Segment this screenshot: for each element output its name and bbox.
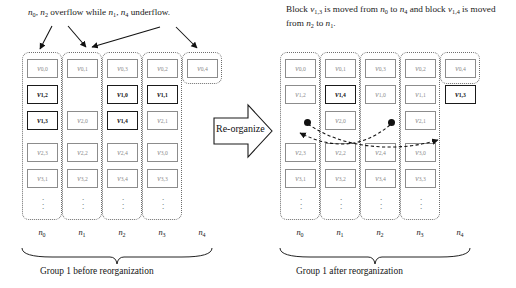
- vertical-ellipsis-icon: ...: [401, 195, 441, 209]
- node-label-n0: n0: [280, 228, 320, 238]
- block-cell[interactable]: v1,3: [445, 85, 476, 104]
- vertical-ellipsis-icon: ...: [23, 195, 63, 209]
- node-column-n4[interactable]: v0,4: [182, 52, 222, 84]
- vacated-slot-dot-n2: [388, 119, 395, 126]
- node-column-n3[interactable]: v0,2v1,1v2,1v3,0v3,3...: [400, 52, 440, 220]
- node-label-n3: n3: [400, 228, 440, 238]
- node-column-n0[interactable]: v0,0v1,2v1,3v2,3v3,1...: [22, 52, 62, 220]
- block-cell[interactable]: v2,2: [67, 143, 98, 162]
- block-cell[interactable]: v0,0: [27, 59, 58, 78]
- block-cell[interactable]: v0,1: [325, 59, 356, 78]
- block-cell[interactable]: v0,3: [107, 59, 138, 78]
- right-panel-caption: Block v1,3 is moved from n0 to n4 and bl…: [286, 4, 501, 31]
- block-cell[interactable]: v3,0: [147, 143, 178, 162]
- block-cell[interactable]: v3,3: [147, 169, 178, 188]
- block-cell[interactable]: v1,0: [107, 85, 138, 104]
- node-label-n1: n1: [62, 228, 102, 238]
- block-cell[interactable]: v2,0: [325, 111, 356, 130]
- vertical-ellipsis-icon: ...: [143, 195, 183, 209]
- block-cell[interactable]: v1,3: [27, 111, 58, 130]
- block-cell[interactable]: v0,3: [365, 59, 396, 78]
- node-column-n1[interactable]: v0,1v2,0v2,2v3,2...: [62, 52, 102, 220]
- node-label-n2: n2: [102, 228, 142, 238]
- block-cell[interactable]: v1,1: [405, 85, 436, 104]
- node-column-n0[interactable]: v0,0v1,2v2,3v3,1...: [280, 52, 320, 220]
- block-cell[interactable]: v2,1: [405, 111, 436, 130]
- vertical-ellipsis-icon: ...: [281, 195, 321, 209]
- block-cell[interactable]: v2,0: [67, 111, 98, 130]
- node-column-n2[interactable]: v0,3v1,0v2,4v3,4...: [360, 52, 400, 220]
- node-column-n3[interactable]: v0,2v1,1v2,1v3,0v3,3...: [142, 52, 182, 220]
- block-cell[interactable]: v3,3: [405, 169, 436, 188]
- vertical-ellipsis-icon: ...: [361, 195, 401, 209]
- block-cell[interactable]: v2,4: [365, 143, 396, 162]
- block-cell[interactable]: v2,2: [325, 143, 356, 162]
- vertical-ellipsis-icon: ...: [63, 195, 103, 209]
- right-group-caption: Group 1 after reorganization: [296, 266, 403, 276]
- block-cell[interactable]: v2,3: [27, 143, 58, 162]
- node-column-n1[interactable]: v0,1v1,4v2,0v2,2v3,2...: [320, 52, 360, 220]
- block-cell[interactable]: v3,4: [107, 169, 138, 188]
- vertical-ellipsis-icon: ...: [103, 195, 143, 209]
- block-cell[interactable]: v3,0: [405, 143, 436, 162]
- vacated-slot-dot-n0: [304, 119, 311, 126]
- block-cell[interactable]: v0,0: [285, 59, 316, 78]
- block-cell[interactable]: v1,0: [365, 85, 396, 104]
- right-panel: Block v1,3 is moved from n0 to n4 and bl…: [258, 0, 516, 288]
- block-cell[interactable]: v3,2: [325, 169, 356, 188]
- right-columns: v0,0v1,2v2,3v3,1...n0v0,1v1,4v2,0v2,2v3,…: [258, 52, 516, 230]
- node-label-n3: n3: [142, 228, 182, 238]
- block-cell[interactable]: v0,2: [147, 59, 178, 78]
- block-cell[interactable]: v1,1: [147, 85, 178, 104]
- block-cell[interactable]: v3,2: [67, 169, 98, 188]
- block-cell[interactable]: v0,1: [67, 59, 98, 78]
- caption-text: Block v1,3 is moved from n0 to n4 and bl…: [286, 4, 496, 28]
- left-group-caption: Group 1 before reorganization: [40, 266, 154, 276]
- node-column-n4[interactable]: v0,4v1,3: [440, 52, 480, 84]
- block-cell[interactable]: v0,2: [405, 59, 436, 78]
- block-cell[interactable]: v3,4: [365, 169, 396, 188]
- caption-text: n0, n2 overflow while n1, n4 underflow.: [28, 7, 170, 17]
- node-label-n2: n2: [360, 228, 400, 238]
- block-cell[interactable]: v1,4: [107, 111, 138, 130]
- block-cell[interactable]: v3,1: [27, 169, 58, 188]
- block-cell[interactable]: v2,4: [107, 143, 138, 162]
- block-cell[interactable]: v1,2: [285, 85, 316, 104]
- block-cell[interactable]: v2,3: [285, 143, 316, 162]
- block-cell[interactable]: v0,4: [187, 59, 218, 78]
- reorganize-label: Re-organize: [216, 123, 265, 134]
- node-label-n1: n1: [320, 228, 360, 238]
- block-cell[interactable]: v1,2: [27, 85, 58, 104]
- node-label-n0: n0: [22, 228, 62, 238]
- node-label-n4: n4: [182, 228, 222, 238]
- block-cell[interactable]: v2,1: [147, 111, 178, 130]
- vertical-ellipsis-icon: ...: [321, 195, 361, 209]
- block-cell[interactable]: v1,4: [325, 85, 356, 104]
- block-cell[interactable]: v3,1: [285, 169, 316, 188]
- block-cell[interactable]: v0,4: [445, 59, 476, 78]
- left-panel-caption: n0, n2 overflow while n1, n4 underflow.: [28, 7, 170, 21]
- node-column-n2[interactable]: v0,3v1,0v1,4v2,4v3,4...: [102, 52, 142, 220]
- node-label-n4: n4: [440, 228, 480, 238]
